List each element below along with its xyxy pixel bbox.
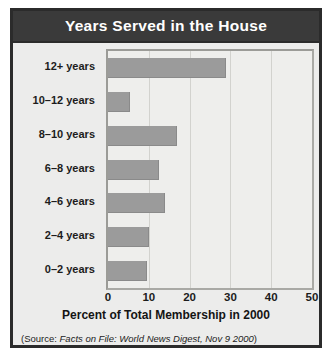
bar xyxy=(108,261,147,281)
x-axis-tick-label: 30 xyxy=(224,291,237,303)
bar xyxy=(108,92,130,112)
bar-row xyxy=(108,160,159,180)
y-axis-label: 10–12 years xyxy=(33,90,95,110)
x-axis-title: Percent of Total Membership in 2000 xyxy=(13,308,319,322)
x-axis-ticks: 01020304050 xyxy=(106,291,314,307)
y-axis-label: 6–8 years xyxy=(45,158,95,178)
bar xyxy=(108,227,149,247)
y-axis-label: 8–10 years xyxy=(39,124,95,144)
bar-row xyxy=(108,126,177,146)
bar xyxy=(108,193,165,213)
x-axis-tick-label: 20 xyxy=(183,291,196,303)
y-axis-label: 4–6 years xyxy=(45,191,95,211)
bar-row xyxy=(108,261,147,281)
x-axis-tick-label: 0 xyxy=(105,291,111,303)
plot-area xyxy=(106,49,314,290)
y-axis-labels: 12+ years10–12 years8–10 years6–8 years4… xyxy=(13,49,101,286)
source-citation: Facts on File: World News Digest, Nov 9 … xyxy=(60,333,254,344)
bar xyxy=(108,58,226,78)
chart-title: Years Served in the House xyxy=(65,17,267,35)
source-note: (Source: Facts on File: World News Diges… xyxy=(21,333,257,344)
bar xyxy=(108,160,159,180)
bar-series xyxy=(108,51,312,288)
y-axis-label: 0–2 years xyxy=(45,259,95,279)
y-axis-label: 12+ years xyxy=(45,56,95,76)
bar xyxy=(108,126,177,146)
bar-row xyxy=(108,92,130,112)
bar-row xyxy=(108,227,149,247)
bar-row xyxy=(108,58,226,78)
chart-body: 12+ years10–12 years8–10 years6–8 years4… xyxy=(13,43,319,348)
bar-row xyxy=(108,193,165,213)
x-axis-tick-label: 50 xyxy=(306,291,319,303)
chart-title-bar: Years Served in the House xyxy=(13,11,319,43)
source-suffix: ) xyxy=(254,333,257,344)
source-prefix: (Source: xyxy=(21,333,60,344)
x-axis-tick-label: 40 xyxy=(265,291,278,303)
y-axis-label: 2–4 years xyxy=(45,225,95,245)
x-axis-tick-label: 10 xyxy=(142,291,155,303)
chart-figure: Years Served in the House 12+ years10–12… xyxy=(10,8,322,348)
